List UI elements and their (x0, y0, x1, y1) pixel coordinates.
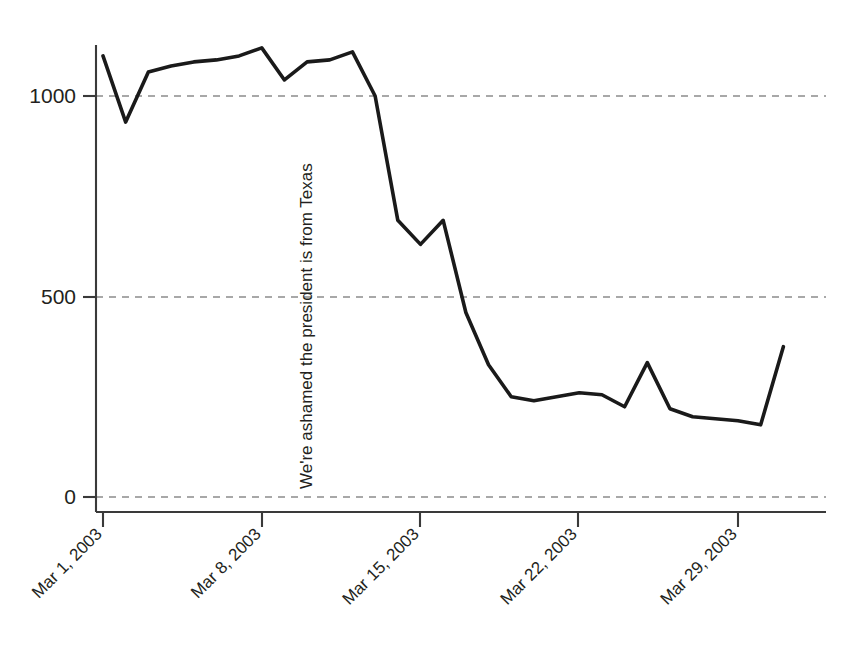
x-axis: Mar 1, 2003 Mar 8, 2003 Mar 15, 2003 Mar… (28, 512, 826, 609)
y-tick-label-500: 500 (41, 285, 76, 308)
y-tick-label-0: 0 (64, 485, 76, 508)
data-series-line (103, 48, 783, 425)
line-chart: 1000 500 0 Mar 1, 2003 Mar 8, 2003 Mar 1… (0, 0, 849, 656)
x-tick-label-mar-15: Mar 15, 2003 (339, 524, 423, 608)
x-tick-label-mar-1: Mar 1, 2003 (28, 524, 106, 602)
chart-container: 1000 500 0 Mar 1, 2003 Mar 8, 2003 Mar 1… (0, 0, 849, 656)
annotation-label-texas: We're ashamed the president is from Texa… (297, 163, 316, 489)
y-axis: 1000 500 0 (29, 45, 96, 512)
x-tick-label-mar-8: Mar 8, 2003 (187, 524, 265, 602)
x-tick-label-mar-29: Mar 29, 2003 (657, 524, 741, 608)
y-tick-label-1000: 1000 (29, 84, 76, 107)
x-tick-label-mar-22: Mar 22, 2003 (497, 524, 581, 608)
